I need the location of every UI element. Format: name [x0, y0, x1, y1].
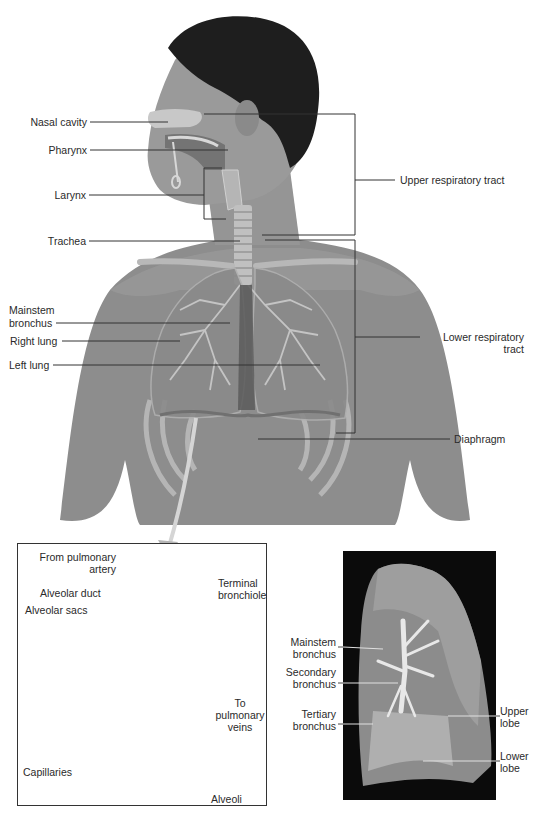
label-alveoli: Alveoli: [211, 793, 242, 805]
label-trachea: Trachea: [0, 235, 86, 247]
label-photo-mainstem-bronchus-line1: Mainstem: [270, 636, 336, 648]
label-photo-secondary-bronchus-line2: bronchus: [270, 678, 336, 690]
label-upper-lobe-line2: lobe: [500, 717, 520, 729]
label-terminal-bronchiole-line1: Terminal: [218, 577, 258, 589]
label-nasal-cavity: Nasal cavity: [0, 116, 87, 128]
label-from-pulmonary-artery-line2: artery: [20, 563, 116, 575]
nasal-cavity: [148, 109, 202, 128]
label-to-pulmonary-veins-line3: veins: [210, 721, 270, 733]
label-to-pulmonary-veins-line2: pulmonary: [210, 709, 270, 721]
ear: [235, 100, 259, 136]
label-mainstem-bronchus-line2: bronchus: [9, 317, 52, 329]
label-alveolar-duct: Alveolar duct: [40, 587, 101, 599]
label-lower-lobe-line1: Lower: [500, 750, 529, 762]
label-capillaries: Capillaries: [23, 766, 72, 778]
label-pharynx: Pharynx: [0, 144, 87, 156]
label-lower-respiratory-tract-line2: tract: [420, 343, 524, 355]
label-alveolar-sacs: Alveolar sacs: [25, 604, 87, 616]
label-terminal-bronchiole-line2: bronchiole: [218, 589, 266, 601]
label-to-pulmonary-veins-line1: To: [210, 697, 270, 709]
label-lower-respiratory-tract-line1: Lower respiratory: [420, 331, 524, 343]
label-lower-lobe-line2: lobe: [500, 762, 520, 774]
label-right-lung: Right lung: [10, 335, 57, 347]
label-photo-tertiary-bronchus-line1: Tertiary: [270, 708, 336, 720]
label-upper-respiratory-tract: Upper respiratory tract: [400, 174, 504, 186]
label-from-pulmonary-artery-line1: From pulmonary: [20, 551, 116, 563]
label-diaphragm: Diaphragm: [454, 433, 505, 445]
label-upper-lobe-line1: Upper: [500, 705, 529, 717]
label-photo-tertiary-bronchus-line2: bronchus: [270, 720, 336, 732]
label-left-lung: Left lung: [9, 359, 49, 371]
lung-specimen-photo: [343, 551, 496, 800]
label-larynx: Larynx: [0, 189, 86, 201]
label-photo-mainstem-bronchus-line2: bronchus: [270, 648, 336, 660]
label-photo-secondary-bronchus-line1: Secondary: [270, 666, 336, 678]
label-mainstem-bronchus-line1: Mainstem: [9, 304, 55, 316]
